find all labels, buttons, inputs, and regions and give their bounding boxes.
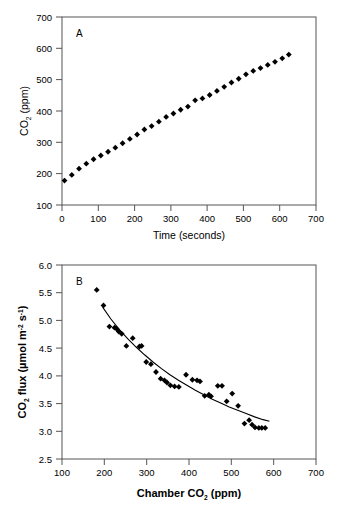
data-point: [246, 417, 252, 423]
data-point: [176, 384, 182, 390]
x-tick-600: 600: [266, 459, 282, 478]
data-point: [91, 156, 97, 162]
panel-a-svg: 700 600 500 400 300: [0, 0, 355, 245]
y-title-mid: flux (µmol m: [16, 330, 28, 398]
x-tick-400: 400: [199, 205, 215, 224]
panel-b: 6.0 5.5 5.0 4.5 4.0: [0, 245, 355, 510]
data-point: [178, 107, 184, 113]
panel-b-x-axis-title: Chamber CO2 (ppm): [137, 487, 242, 501]
y-tick-4-0: 4.0: [39, 370, 62, 381]
data-point: [120, 140, 126, 146]
data-point: [221, 84, 227, 90]
panel-a-y-axis-title: CO2 (ppm): [18, 86, 32, 136]
data-point: [242, 421, 248, 427]
data-point: [105, 149, 111, 155]
x-tick-100: 100: [54, 459, 70, 478]
data-point: [272, 59, 278, 65]
x-tick-label: 0: [59, 213, 64, 224]
panel-a-y-axis: 700 600 500 400 300: [36, 12, 62, 211]
y-tick-label: 300: [36, 137, 52, 148]
panel-b-x-axis: 100 200 300 400 500: [54, 459, 324, 478]
data-point: [224, 398, 230, 404]
panel-a-plot-frame: [62, 17, 316, 205]
y-tick-600: 600: [36, 43, 62, 54]
panel-a-x-axis-title: Time (seconds): [153, 229, 225, 241]
data-point: [236, 76, 242, 82]
x-tick-0: 0: [59, 205, 64, 224]
data-point: [127, 136, 133, 142]
x-tick-label: 500: [223, 467, 239, 478]
x-tick-200: 200: [96, 459, 112, 478]
y-tick-5-5: 5.5: [39, 287, 62, 298]
x-tick-400: 400: [181, 459, 197, 478]
data-point: [229, 391, 235, 397]
y-title-tail: ): [16, 305, 28, 309]
data-point: [112, 145, 118, 151]
panel-b-y-axis: 6.0 5.5 5.0 4.5 4.0: [39, 260, 62, 465]
y-tick-4-5: 4.5: [39, 343, 62, 354]
data-point: [229, 80, 235, 86]
data-point: [183, 372, 189, 378]
data-point: [94, 287, 100, 293]
x-title-tail: (ppm): [208, 487, 242, 499]
panel-b-fit-curve: [103, 307, 270, 421]
data-point: [62, 178, 68, 184]
x-tick-label: 400: [181, 467, 197, 478]
panel-a: 700 600 500 400 300: [0, 0, 355, 245]
y-tick-3-0: 3.0: [39, 426, 62, 437]
panel-b-y-axis-title: CO2 flux (µmol m-2 s-1): [16, 305, 30, 418]
data-point: [83, 161, 89, 167]
x-tick-label: 200: [96, 467, 112, 478]
y-tick-200: 200: [36, 168, 62, 179]
data-point: [149, 123, 155, 129]
figure-container: 700 600 500 400 300: [0, 0, 355, 510]
data-point: [262, 425, 268, 431]
x-tick-label: 700: [308, 467, 324, 478]
y-title-main: CO: [18, 120, 30, 136]
y-tick-2-5: 2.5: [39, 454, 62, 465]
y-tick-400: 400: [36, 106, 62, 117]
x-title-main: Chamber CO: [137, 487, 205, 499]
y-tick-label: 5.0: [39, 315, 52, 326]
panel-b-letter: B: [76, 276, 83, 287]
data-point: [250, 68, 256, 74]
x-tick-label: 700: [308, 213, 324, 224]
x-tick-label: 100: [54, 467, 70, 478]
data-point: [107, 324, 113, 330]
y-tick-label: 5.5: [39, 287, 52, 298]
data-point: [134, 132, 140, 138]
y-tick-label: 700: [36, 12, 52, 23]
panel-a-series: [62, 52, 292, 184]
y-tick-label: 6.0: [39, 260, 52, 271]
data-point: [76, 166, 82, 172]
data-point: [279, 55, 285, 61]
data-point: [214, 88, 220, 94]
y-tick-5-0: 5.0: [39, 315, 62, 326]
x-tick-label: 500: [235, 213, 251, 224]
y-title-main: CO: [16, 401, 28, 418]
x-tick-label: 100: [90, 213, 106, 224]
x-tick-300: 300: [139, 459, 155, 478]
data-point: [200, 96, 206, 102]
data-point: [258, 65, 264, 71]
y-tick-label: 2.5: [39, 454, 52, 465]
data-point: [185, 104, 191, 110]
y-tick-label: 4.5: [39, 343, 52, 354]
x-tick-500: 500: [223, 459, 239, 478]
data-point: [243, 71, 249, 77]
x-tick-label: 600: [272, 213, 288, 224]
x-tick-label: 400: [199, 213, 215, 224]
x-tick-200: 200: [127, 205, 143, 224]
data-point: [170, 111, 176, 117]
y-tick-700: 700: [36, 12, 62, 23]
data-point: [207, 92, 213, 98]
data-point: [69, 172, 75, 178]
x-tick-700: 700: [308, 205, 324, 224]
data-point: [235, 403, 241, 409]
data-point: [286, 52, 292, 58]
x-tick-label: 600: [266, 467, 282, 478]
data-point: [189, 377, 195, 383]
x-tick-600: 600: [272, 205, 288, 224]
y-tick-6-0: 6.0: [39, 260, 62, 271]
y-tick-label: 4.0: [39, 370, 52, 381]
